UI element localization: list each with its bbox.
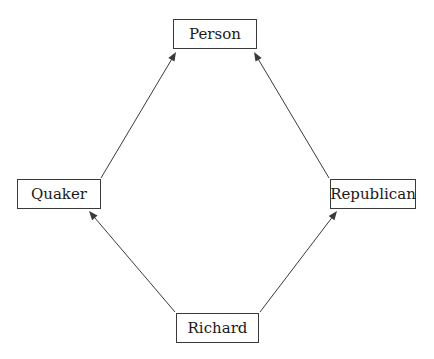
edge-richard-to-quaker (94, 216, 175, 312)
node-richard-label: Richard (188, 321, 248, 336)
node-person[interactable]: Person (173, 19, 257, 49)
diagram-canvas: Person Quaker Republican Richard (0, 0, 434, 359)
node-republican[interactable]: Republican (330, 179, 416, 209)
arrowhead-richard-to-republican (329, 211, 337, 220)
node-republican-label: Republican (330, 187, 416, 202)
node-quaker-label: Quaker (31, 187, 87, 202)
edge-richard-to-republican (260, 217, 333, 312)
node-quaker[interactable]: Quaker (17, 179, 101, 209)
arrowhead-quaker-to-person (168, 52, 176, 62)
edge-republican-to-person (258, 58, 329, 178)
node-person-label: Person (189, 27, 241, 42)
arrowhead-republican-to-person (254, 52, 262, 62)
node-richard[interactable]: Richard (176, 313, 259, 343)
edge-quaker-to-person (101, 58, 172, 178)
